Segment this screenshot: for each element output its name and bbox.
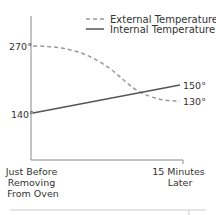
int-end-label: 150°: [183, 80, 206, 91]
internal-temperature-line: [33, 85, 180, 113]
external-temperature-line: [33, 46, 180, 101]
legend-internal-label: Internal Temperature: [110, 24, 215, 35]
int-start-label: 140°: [11, 109, 34, 120]
x-label-start: Just Before Removing From Oven: [5, 166, 61, 199]
ext-start-label: 270°: [9, 41, 32, 52]
temperature-chart: External Temperature Internal Temperatur…: [0, 0, 216, 215]
ext-end-label: 130°: [183, 96, 206, 107]
x-label-end: 15 Minutes Later: [152, 166, 208, 188]
